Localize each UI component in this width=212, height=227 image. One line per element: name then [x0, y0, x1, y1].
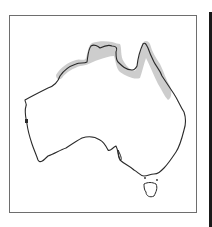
- bass-strait-island: [144, 177, 146, 179]
- page-edge-bar: [209, 12, 212, 227]
- bass-strait-island: [156, 179, 158, 181]
- spencer-gulf-detail: [118, 150, 121, 160]
- range-shading-icon: [56, 41, 171, 100]
- australia-outline-icon: [25, 43, 186, 176]
- australia-range-map: [0, 0, 212, 227]
- tasmania-outline-icon: [144, 183, 157, 197]
- shark-bay-mark: [25, 119, 28, 123]
